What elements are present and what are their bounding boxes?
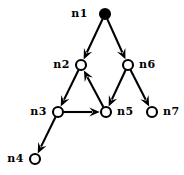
node-label-n4: n4: [7, 152, 24, 165]
edge-n1-to-n2: [87, 19, 103, 52]
graph-canvas: n1n2n3n4n5n6n7: [0, 0, 184, 175]
node-label-n3: n3: [30, 105, 47, 118]
edge-n2-to-n3: [64, 70, 78, 100]
graph-node-n3[interactable]: [53, 107, 63, 117]
graph-node-n2[interactable]: [76, 60, 86, 70]
node-label-n1: n1: [71, 7, 88, 20]
edge-n6-to-n7: [131, 70, 146, 100]
graph-node-n1[interactable]: [100, 9, 110, 19]
graph-node-n7[interactable]: [147, 107, 157, 117]
graph-node-n4[interactable]: [30, 154, 40, 164]
edge-n1-to-n6: [107, 19, 122, 52]
node-label-n7: n7: [163, 105, 180, 118]
edge-n6-to-n5: [112, 70, 126, 99]
edges-layer: [38, 19, 149, 153]
node-label-n6: n6: [139, 58, 156, 71]
labels-layer: n1n2n3n4n5n6n7: [7, 7, 179, 165]
edge-n3-to-n4: [41, 117, 55, 147]
directed-graph-figure: n1n2n3n4n5n6n7: [0, 0, 184, 175]
node-label-n2: n2: [53, 58, 70, 71]
graph-node-n6[interactable]: [123, 60, 133, 70]
node-label-n5: n5: [117, 105, 134, 118]
edge-n5-to-n2: [87, 77, 103, 107]
graph-node-n5[interactable]: [101, 107, 111, 117]
